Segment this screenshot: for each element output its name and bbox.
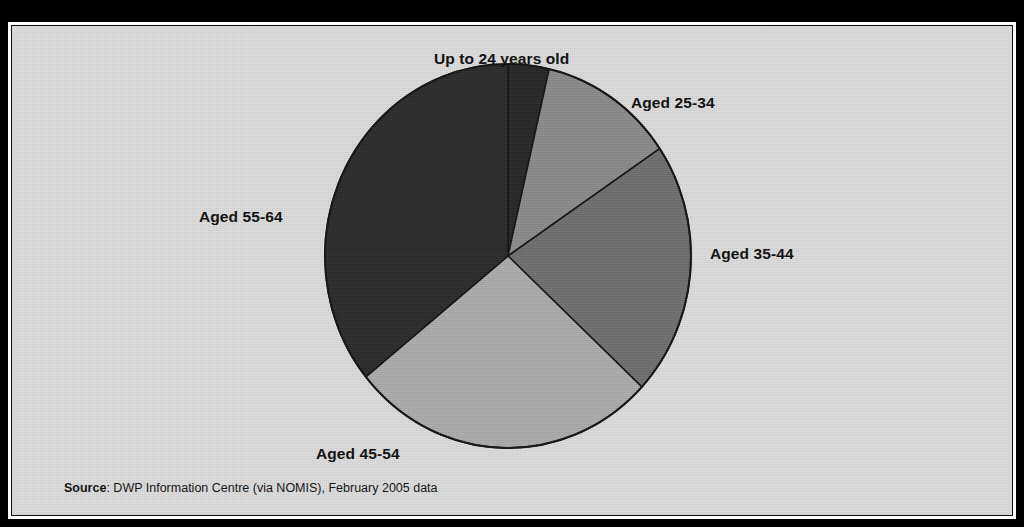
- chart-panel: Up to 24 years old Aged 25-34 Aged 35-44…: [11, 25, 1013, 516]
- pie-label-aged-45-54: Aged 45-54: [316, 445, 400, 463]
- source-text: DWP Information Centre (via NOMIS), Febr…: [110, 481, 438, 495]
- pie-chart-svg: [317, 60, 697, 460]
- pie-chart: [317, 60, 697, 460]
- figure-root: Up to 24 years old Aged 25-34 Aged 35-44…: [0, 0, 1024, 527]
- pie-slice-group: [325, 64, 691, 448]
- pie-label-aged-35-44: Aged 35-44: [710, 245, 794, 263]
- chart-title-band: [0, 0, 1024, 22]
- pie-label-up-to-24: Up to 24 years old: [434, 50, 569, 68]
- chart-panel-frame: Up to 24 years old Aged 25-34 Aged 35-44…: [8, 22, 1016, 519]
- source-label: Source: [64, 481, 106, 495]
- source-note: Source: DWP Information Centre (via NOMI…: [64, 481, 438, 495]
- pie-label-aged-55-64: Aged 55-64: [199, 208, 283, 226]
- pie-label-aged-25-34: Aged 25-34: [631, 94, 715, 112]
